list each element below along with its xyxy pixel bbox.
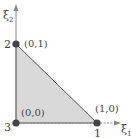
x-axis-arrow-icon — [114, 121, 121, 126]
y-axis-label: ξ2 — [3, 9, 14, 24]
x-axis-label: ξ1 — [121, 123, 132, 138]
coord-label-node-3: (0,0) — [21, 107, 45, 118]
node-3 — [12, 119, 19, 126]
triangle-diagram: ξ2 ξ1 2 3 1 (0,1) (0,0) (1,0) — [0, 0, 132, 138]
coord-label-node-2: (0,1) — [24, 38, 48, 49]
node-number-1: 1 — [94, 127, 101, 138]
node-2 — [12, 40, 19, 47]
node-1 — [93, 119, 100, 126]
coord-label-node-1: (1,0) — [95, 103, 119, 114]
y-axis-arrow-icon — [14, 4, 19, 11]
node-number-3: 3 — [4, 121, 11, 134]
node-number-2: 2 — [4, 38, 11, 51]
